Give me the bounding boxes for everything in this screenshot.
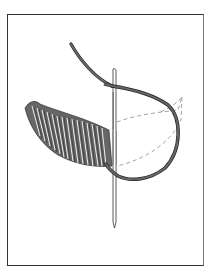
thread-upper: [71, 44, 112, 86]
satin-stitch-leaf: [25, 101, 112, 166]
satin-stitch-illustration: [0, 0, 205, 268]
